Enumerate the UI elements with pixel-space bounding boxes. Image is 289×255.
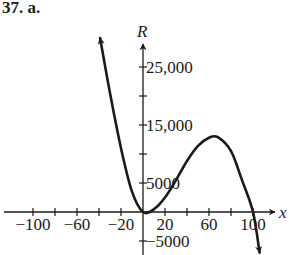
- x-tick-label: −20: [108, 215, 135, 234]
- r-tick-label: 25,000: [146, 58, 193, 77]
- r-axis-label: R: [136, 22, 148, 41]
- r-tick-label: 15,000: [146, 116, 193, 135]
- r-tick-label: −5000: [146, 232, 190, 251]
- chart: xR−100−60−20206010025,00015,0005000−5000: [0, 0, 289, 255]
- tick-labels: xR−100−60−20206010025,00015,0005000−5000: [15, 22, 287, 251]
- x-tick-label: −60: [64, 215, 91, 234]
- x-tick-label: −100: [15, 215, 50, 234]
- x-axis-label: x: [278, 203, 287, 222]
- x-tick-label: 60: [201, 215, 218, 234]
